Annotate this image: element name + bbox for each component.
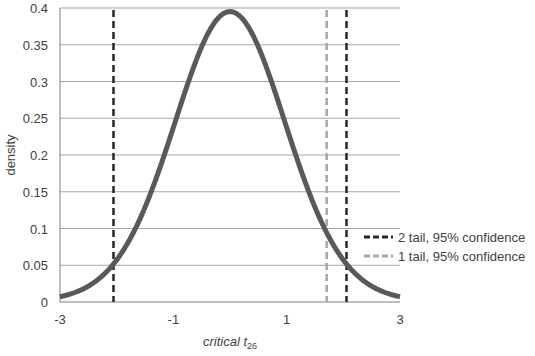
x-tick-label: 1 [283, 312, 290, 327]
gridlines [60, 8, 400, 302]
y-tick-label: 0.25 [23, 111, 48, 126]
legend-label: 2 tail, 95% confidence [398, 230, 525, 245]
x-tick-label: -3 [54, 312, 66, 327]
x-axis-label: critical t26 [203, 334, 257, 351]
y-tick-label: 0.35 [23, 38, 48, 53]
y-tick-label: 0 [41, 295, 48, 310]
y-tick-label: 0.3 [30, 75, 48, 90]
y-axis-label: density [3, 134, 18, 176]
y-tick-label: 0.2 [30, 148, 48, 163]
legend: 2 tail, 95% confidence1 tail, 95% confid… [364, 230, 525, 264]
y-tick-label: 0.15 [23, 185, 48, 200]
density-curve [60, 12, 400, 297]
x-tick-label: 3 [396, 312, 403, 327]
t-distribution-chart: 00.050.10.150.20.250.30.350.4-3-113densi… [0, 0, 535, 356]
y-tick-label: 0.05 [23, 258, 48, 273]
x-tick-label: -1 [168, 312, 180, 327]
y-tick-label: 0.1 [30, 222, 48, 237]
legend-label: 1 tail, 95% confidence [398, 249, 525, 264]
y-tick-label: 0.4 [30, 1, 48, 16]
